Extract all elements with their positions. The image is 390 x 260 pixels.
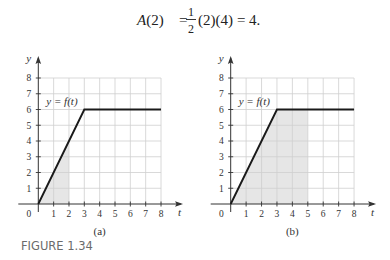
x-tick-label: 5 [305,209,310,219]
x-tick-label: 4 [97,209,102,219]
x-tick-label: 8 [352,209,357,219]
x-tick-label: 8 [159,209,164,219]
x-tick-label: 2 [67,209,72,219]
x-tick-label: 6 [321,209,326,219]
origin-label: 0 [219,209,224,219]
x-tick-label: 3 [82,209,87,219]
y-tick-label: 2 [27,168,32,178]
y-axis-label: y [25,52,31,64]
x-tick-label: 1 [244,209,249,219]
x-tick-label: 6 [128,209,133,219]
function-label: y = f(t) [238,95,271,108]
fraction-denominator: 2 [188,22,194,36]
y-tick-label: 7 [219,89,224,99]
y-tick-label: 5 [219,121,224,131]
panel-label: (a) [94,225,107,238]
equation-product: (2)(4) [198,12,233,29]
y-tick-label: 6 [219,105,224,115]
panel-label: (b) [286,225,299,238]
x-axis-label: t [178,206,182,218]
y-tick-label: 5 [27,121,32,131]
fraction-numerator: 1 [188,5,194,19]
x-tick-label: 4 [290,209,295,219]
y-tick-label: 3 [219,152,224,162]
equation-result: 4. [249,12,260,28]
y-axis-label: y [218,52,224,64]
equation-equals: = [179,12,187,28]
x-tick-label: 3 [275,209,280,219]
function-label: y = f(t) [45,95,78,108]
origin-label: 0 [27,209,32,219]
equation-lhs: A(2) [136,12,164,29]
x-tick-label: 7 [336,209,341,219]
x-tick-label: 7 [143,209,148,219]
y-tick-label: 8 [219,73,224,83]
y-tick-label: 3 [27,152,32,162]
y-tick-label: 7 [27,89,32,99]
x-tick-label: 5 [113,209,118,219]
equation: A(2) = 1 2 (2)(4) = 4. [136,5,260,36]
y-tick-label: 6 [27,105,32,115]
y-tick-label: 4 [219,136,224,146]
x-tick-label: 1 [51,209,56,219]
graph-panel-a: 12345678123456780tyy = f(t)(a) [18,52,183,238]
y-tick-label: 1 [219,184,224,194]
y-tick-label: 1 [27,184,32,194]
x-tick-label: 2 [259,209,264,219]
y-tick-label: 4 [27,136,32,146]
x-axis-label: t [371,206,375,218]
y-tick-label: 8 [27,73,32,83]
figure: A(2) = 1 2 (2)(4) = 4. 12345678123456780… [0,0,390,260]
graph-panel-b: 12345678123456780tyy = f(t)(b) [211,52,376,238]
figure-caption: FIGURE 1.34 [21,239,93,253]
equation-equals-2: = [237,12,245,28]
y-tick-label: 2 [219,168,224,178]
